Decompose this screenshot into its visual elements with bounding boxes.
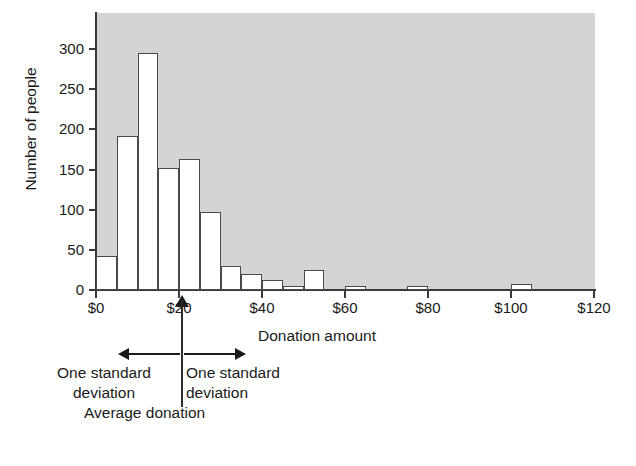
- x-axis-tick-label: $80: [396, 300, 460, 315]
- donation-histogram-figure: 050100150200250300 $0$20$40$60$80$100$12…: [0, 0, 636, 466]
- histogram-bar: [241, 274, 262, 290]
- x-axis-tick-label: $60: [313, 300, 377, 315]
- average-donation-caption: Average donation: [84, 404, 205, 422]
- x-axis-tick: [593, 291, 595, 298]
- x-axis-tick: [427, 291, 429, 298]
- std-dev-right-caption-line1: One standard: [186, 363, 346, 383]
- x-axis-tick: [261, 291, 263, 298]
- average-donation-vertical-line: [181, 300, 183, 407]
- histogram-bar: [304, 270, 325, 290]
- y-axis-tick-label: 50: [30, 242, 84, 257]
- y-axis-tick: [89, 128, 96, 130]
- histogram-bar: [221, 266, 242, 290]
- y-axis-tick-label: 0: [30, 282, 84, 297]
- histogram-bar: [200, 212, 221, 290]
- histogram-bar: [407, 286, 428, 290]
- x-axis-tick-label: $100: [479, 300, 543, 315]
- std-dev-right-caption-line2: deviation: [186, 383, 346, 403]
- std-dev-left-caption-line1: One standard: [30, 363, 178, 383]
- x-axis-tick: [510, 291, 512, 298]
- std-dev-left-caption: One standard deviation: [30, 363, 178, 403]
- histogram-bar: [96, 256, 117, 290]
- y-axis-title: Number of people: [22, 44, 40, 214]
- histogram-bar: [345, 286, 366, 290]
- x-axis-tick: [344, 291, 346, 298]
- histogram-bar: [511, 284, 532, 290]
- x-axis-title: Donation amount: [258, 327, 376, 345]
- y-axis-tick: [89, 88, 96, 90]
- histogram-bar: [158, 168, 179, 290]
- x-axis-tick-label: $120: [562, 300, 626, 315]
- y-axis-tick: [89, 48, 96, 50]
- histogram-bar: [138, 53, 159, 290]
- histogram-bar: [179, 159, 200, 290]
- x-axis-tick: [95, 291, 97, 298]
- histogram-bar: [262, 280, 283, 290]
- x-axis-tick-label: $0: [64, 300, 128, 315]
- std-dev-left-arrow-icon: [118, 348, 180, 360]
- std-dev-right-arrow-icon: [184, 348, 246, 360]
- x-axis-tick-label: $40: [230, 300, 294, 315]
- histogram-bar: [283, 286, 304, 290]
- std-dev-left-caption-line2: deviation: [30, 383, 178, 403]
- std-dev-right-caption: One standard deviation: [186, 363, 346, 403]
- histogram-bar: [117, 136, 138, 290]
- y-axis-tick: [89, 209, 96, 211]
- y-axis-tick: [89, 169, 96, 171]
- y-axis-tick: [89, 249, 96, 251]
